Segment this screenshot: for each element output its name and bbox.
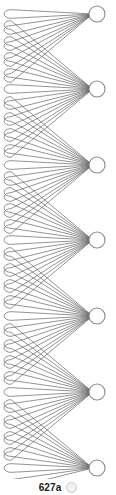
graph-edge-loop: [4, 129, 93, 165]
graph-edge-loop: [4, 188, 93, 240]
graph-edge-loop: [4, 392, 93, 444]
graph-edge-loop: [4, 165, 93, 201]
figure-caption: 627a: [0, 479, 116, 495]
graph-edge-loop: [4, 316, 93, 368]
graph-edge-loop: [4, 69, 93, 89]
graph-edge-loop: [4, 220, 93, 240]
graph-edge-loop: [4, 416, 93, 468]
graph-edge-loop: [4, 248, 93, 316]
graph-edge-loop: [4, 372, 93, 392]
graph-edge-loop: [4, 165, 93, 233]
graph-canvas: [0, 0, 116, 495]
graph-edge-loop: [4, 316, 93, 336]
graph-edge-loop: [4, 240, 93, 308]
graph-edge-loop: [4, 113, 93, 165]
graph-edge-loop: [4, 204, 93, 240]
graph-edge-loop: [4, 316, 93, 384]
graph-edge-loop: [4, 89, 93, 157]
graph-edge-loop: [4, 264, 93, 316]
graph-edge-loop: [4, 392, 93, 460]
graph-edge-loop: [4, 240, 93, 292]
figure-caption-label: 627a: [39, 482, 62, 493]
graph-edge-loop: [4, 324, 93, 392]
graph-node[interactable]: [89, 81, 105, 97]
graph-edge-loop: [4, 14, 93, 66]
graph-edge-loop: [4, 296, 93, 316]
node-layer: [89, 6, 105, 476]
graph-edge-loop: [4, 172, 93, 240]
graph-edge-loop: [4, 97, 93, 165]
graph-node[interactable]: [89, 6, 105, 22]
graph-edge-loop: [4, 392, 93, 412]
graph-node[interactable]: [89, 157, 105, 173]
circle-badge-icon: [66, 482, 77, 493]
graph-edge-loop: [4, 400, 93, 468]
graph-edge-loop: [4, 89, 93, 125]
graph-edge-loop: [4, 145, 93, 165]
graph-edge-loop: [4, 21, 93, 89]
graph-edge-loop: [4, 37, 93, 89]
graph-edge-loop: [4, 448, 93, 468]
graph-edge-loop: [4, 14, 93, 34]
graph-edge-loop: [4, 392, 93, 428]
graph-edge-loop: [4, 89, 93, 109]
graph-edge-loop: [4, 165, 93, 185]
graph-edge-loop: [4, 240, 93, 276]
graph-node[interactable]: [89, 308, 105, 324]
graph-edge-loop: [4, 14, 93, 50]
figure-container: 627a: [0, 0, 116, 495]
graph-edge-loop: [4, 316, 93, 352]
edge-layer: [4, 10, 93, 489]
graph-edge-loop: [4, 356, 93, 392]
graph-node[interactable]: [89, 384, 105, 400]
graph-edge-loop: [4, 432, 93, 468]
graph-edge-loop: [4, 165, 93, 217]
graph-node[interactable]: [89, 460, 105, 476]
graph-edge-loop: [4, 240, 93, 260]
graph-node[interactable]: [89, 232, 105, 248]
graph-edge-loop: [4, 53, 93, 89]
graph-edge-loop: [4, 280, 93, 316]
graph-edge-loop: [4, 89, 93, 141]
graph-edge-loop: [4, 14, 93, 82]
graph-edge-loop: [4, 340, 93, 392]
